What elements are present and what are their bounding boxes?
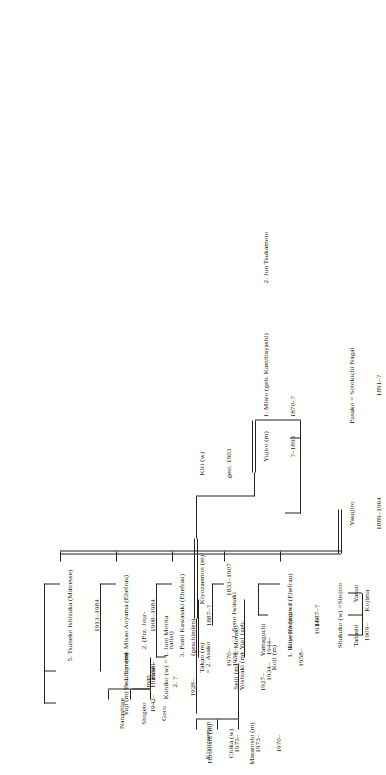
node-hirotoshi-dates: 1975– [233,723,242,763]
node-koji: Koji (m) 1958– [252,644,325,669]
node-hirotoshi: Hirotoshi (m) 1975– [188,723,261,763]
tick-wife-3 [172,551,173,561]
node-fusako: Fusako = Sotokichi Nagai 1891–? [330,347,386,423]
node-wife-5-name: 5. Tsuneko Ishizuka (Mätresse) [66,569,75,661]
drop-shukuko-children [348,614,362,615]
drop-wife5 [44,583,60,584]
connector-to-fusako [290,437,301,438]
wives-rail-b [60,550,341,551]
node-fusako-name: Fusako = Sotokichi Nagai [348,347,357,423]
connector-yujiro-children-bar [300,420,301,513]
tick-wife-4 [116,551,117,561]
node-tadashi-name: Tadashi [352,624,361,647]
connector-to-yasujiro [285,512,301,513]
node-kiri: Kiri (w) gest. 1903 [180,448,253,478]
node-yujiro-name: Yujiro (m) [262,431,271,462]
node-tadashi: Tadashi [334,624,379,647]
node-yujiro-dates: ?–1893 [289,431,298,462]
wives-rail-a [60,553,341,554]
genealogy-chart-page: Kiyozaemon Kiyozaemon (m) 1833–1907 Kiri… [0,0,386,775]
bar-wife1-children [258,583,259,615]
marriage-rail-yasujiro-a [338,509,339,553]
drop-wife4 [100,583,116,584]
tick-wife-2 [224,551,225,561]
marriage-line-yujiro-b [255,420,256,472]
node-jun-tsukamoto: 2. Jun Tsukamoto [244,231,289,283]
family-tree-diagram: Kiyozaemon Kiyozaemon (m) 1833–1907 Kiri… [0,0,386,775]
node-jun-tsukamoto-name: 2. Jun Tsukamoto [262,231,271,283]
node-lynette-2: man 2. ? [126,674,199,687]
node-yasujiro-dates: 1889–1964 [375,497,384,530]
drop-wife1 [258,583,280,584]
node-takao-dates: 1970– [225,642,234,672]
tick-wife-5 [60,551,61,561]
tick-goro [150,689,151,699]
tick-wife-1 [280,551,281,561]
node-yasuo: Yasuo [334,584,379,602]
drop-wife3 [156,583,172,584]
node-koji-dates: 1958– [297,644,306,669]
connector-gen1-to-yujiro [254,472,255,496]
node-frz-journalist-dates: nalist) [167,611,176,649]
node-kiri-dates: gest. 1903 [225,448,234,478]
node-yasuo-name: Yasuo [352,584,361,602]
node-nanashige: Nanashige [100,698,145,729]
bar-wife4-children [100,583,101,671]
link-kuniko-children [150,657,151,689]
node-miwo: 1. Miwo (geb. Kamibayashi) 1870–? [244,333,317,417]
node-koji-name: Koji (m) [270,644,279,669]
bar-wife5-children [44,583,45,703]
drop-shukuko [258,614,268,615]
node-yasujiro-name: Yasujiro [348,497,357,530]
node-lynette-2-name: man [144,674,153,687]
node-takao: Takao (m) 1970– [180,642,253,672]
drop-yasuhiro [44,670,56,671]
node-fusako-dates: 1891–? [375,347,384,423]
node-nanashige-name: Nanashige [118,698,127,729]
node-lynette-2-dates: 2. ? [171,674,180,687]
bar-yoshiaki-children-link [238,663,239,719]
node-kiri-name: Kiri (w) [198,448,207,478]
marriage-line-yujiro-a [252,420,253,472]
drop-yuji [44,702,56,703]
node-miwo-name: 1. Miwo (geb. Kamibayashi) [262,333,271,417]
bar-kuniko-children [108,688,150,689]
node-kiyoshi-dates: 1914– [313,602,322,649]
node-frz-journalist-name: 2. (Frz. Jour- [140,611,149,649]
connector-yujiro-drop [255,419,301,420]
node-takao-name: Takao (m) [198,642,207,672]
drop-wife2 [212,583,224,584]
node-hirotoshi-name: Hirotoshi (m) [206,723,215,763]
connector-gen1-drop [196,495,254,496]
connector-gen1-to-gen2 [196,496,197,538]
node-miwo-dates: 1870–? [289,333,298,417]
marriage-rail-yasujiro-b [341,509,342,553]
